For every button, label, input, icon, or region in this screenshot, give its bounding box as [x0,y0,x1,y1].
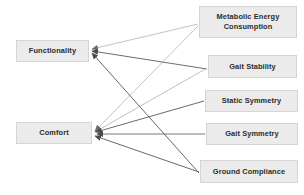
node-ground-compliance-label: Ground Compliance [210,167,288,177]
node-functionality[interactable]: Functionality [16,40,89,62]
node-gait-symmetry-label: Gait Symmetry [222,129,281,139]
node-metabolic-line-2: Consumption [214,22,283,32]
node-ground-compliance[interactable]: Ground Compliance [200,160,298,183]
node-metabolic-line-1: Metabolic Energy [214,12,283,22]
node-gait-stability-label: Gait Stability [226,62,279,72]
node-static-symmetry[interactable]: Static Symmetry [205,90,298,112]
node-functionality-label: Functionality [26,46,79,56]
node-comfort-label: Comfort [36,128,71,138]
edge-gait-stability-to-comfort [95,68,207,132]
edge-ground-compliance-to-comfort [95,136,199,172]
edge-metabolic-to-functionality [92,24,198,49]
node-static-symmetry-label: Static Symmetry [219,96,284,106]
node-metabolic-energy-consumption[interactable]: Metabolic Energy Consumption [199,6,297,38]
node-gait-stability[interactable]: Gait Stability [208,55,297,78]
edge-static-symmetry-to-comfort [96,101,204,132]
edge-metabolic-to-comfort [95,26,198,131]
node-comfort[interactable]: Comfort [16,122,92,144]
edge-ground-compliance-to-functionality [92,53,199,173]
diagram-canvas: Functionality Comfort Metabolic Energy C… [0,0,304,195]
node-metabolic-energy-consumption-label: Metabolic Energy Consumption [211,12,286,31]
node-gait-symmetry[interactable]: Gait Symmetry [206,123,298,145]
edge-gait-stability-to-functionality [92,51,207,69]
